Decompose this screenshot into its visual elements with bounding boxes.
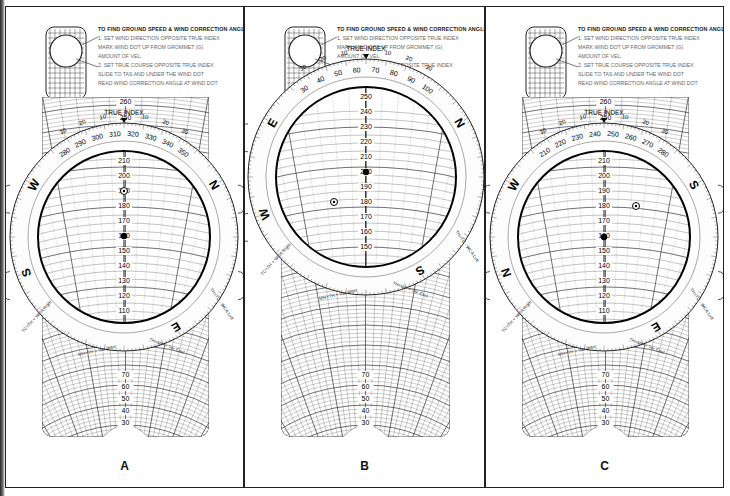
- azimuth-number: 60: [352, 66, 360, 74]
- grid-speed-label: 220: [360, 138, 372, 145]
- grid-speed-label: 180: [598, 202, 610, 209]
- grid-speed-label: 210: [118, 157, 130, 164]
- grid-speed-label: 140: [118, 262, 130, 269]
- true-index-triangle-icon: [363, 54, 369, 59]
- speed-label: 30: [122, 419, 130, 426]
- grid-speed-label: 110: [118, 307, 129, 314]
- computer-sketch-icon: [46, 27, 98, 99]
- grommet-icon: [121, 233, 127, 239]
- azimuth-number: 320: [127, 130, 139, 138]
- speed-label: 70: [602, 371, 610, 378]
- speed-label: 50: [602, 395, 610, 402]
- computer-drawing: 706050403030405060708090100ENWSTRUE INDE…: [245, 7, 485, 488]
- grid-speed-label: 210: [360, 153, 372, 160]
- panel-b: TO FIND GROUND SPEED & WIND CORRECTION A…: [244, 6, 485, 488]
- azimuth-number: 240: [589, 130, 601, 138]
- panel-label: C: [486, 459, 723, 473]
- speed-label: 30: [602, 419, 610, 426]
- grid-speed-label: 250: [360, 93, 372, 100]
- grid-speed-label: 170: [598, 217, 610, 224]
- wca-tick-label: 20: [319, 54, 328, 62]
- computer-drawing: 7060504030260250210220230240250260270280…: [486, 7, 724, 488]
- grid-speed-label: 240: [360, 108, 372, 115]
- grid-speed-label: 120: [598, 292, 610, 299]
- grid-speed-label: 150: [360, 243, 372, 250]
- grid-speed-label: 130: [598, 277, 610, 284]
- grid-speed-label: 150: [598, 247, 610, 254]
- azimuth-number: 70: [371, 66, 379, 74]
- grommet-icon: [363, 169, 369, 175]
- computer-sketch-icon: [526, 27, 578, 99]
- panel-c: TO FIND GROUND SPEED & WIND CORRECTION A…: [485, 6, 724, 488]
- true-index-label: TRUE INDEX: [104, 109, 144, 116]
- wca-tick-label: 30: [425, 64, 434, 73]
- true-index-label: TRUE INDEX: [346, 45, 386, 52]
- grid-speed-label: 190: [598, 187, 610, 194]
- grid-speed-label: 130: [118, 277, 130, 284]
- speed-label: 40: [602, 407, 610, 414]
- grid-speed-label: 170: [118, 217, 130, 224]
- grid-speed-label: 180: [360, 198, 372, 205]
- grid-speed-label: 150: [118, 247, 130, 254]
- wca-tick-label: 10: [384, 49, 392, 56]
- azimuth-number: 310: [109, 130, 121, 138]
- speed-label: 70: [122, 371, 130, 378]
- speed-label: 260: [120, 98, 132, 105]
- speed-label: 40: [362, 407, 370, 414]
- speed-label: 70: [362, 371, 370, 378]
- grid-speed-label: 200: [118, 172, 130, 179]
- speed-label: 30: [362, 419, 370, 426]
- grid-speed-label: 190: [360, 183, 372, 190]
- azimuth-number: 250: [607, 130, 619, 138]
- speed-label: 40: [122, 407, 130, 414]
- speed-label: 50: [122, 395, 130, 402]
- speed-label: 60: [362, 383, 370, 390]
- grid-speed-label: 180: [118, 202, 130, 209]
- speed-label: 60: [602, 383, 610, 390]
- grid-speed-label: 110: [598, 307, 609, 314]
- grommet-icon: [601, 234, 607, 240]
- panel-a: TO FIND GROUND SPEED & WIND CORRECTION A…: [5, 6, 244, 488]
- grid-speed-label: 160: [360, 228, 372, 235]
- computer-drawing: 7060504030260250280290300310320330340350…: [6, 7, 244, 488]
- grid-speed-label: 210: [598, 157, 610, 164]
- grid-speed-label: 140: [598, 262, 610, 269]
- e6b-figure: TO FIND GROUND SPEED & WIND CORRECTION A…: [0, 0, 730, 496]
- speed-label: 260: [600, 98, 612, 105]
- grid-speed-label: 200: [598, 172, 610, 179]
- grid-speed-label: 170: [360, 213, 372, 220]
- panel-label: B: [245, 459, 484, 473]
- grid-speed-label: 230: [360, 123, 372, 130]
- grid-speed-label: 120: [118, 292, 130, 299]
- wca-tick-label: 20: [405, 55, 414, 63]
- speed-label: 50: [362, 395, 370, 402]
- panel-label: A: [6, 459, 243, 473]
- speed-label: 60: [122, 383, 130, 390]
- true-index-label: TRUE INDEX: [584, 109, 624, 116]
